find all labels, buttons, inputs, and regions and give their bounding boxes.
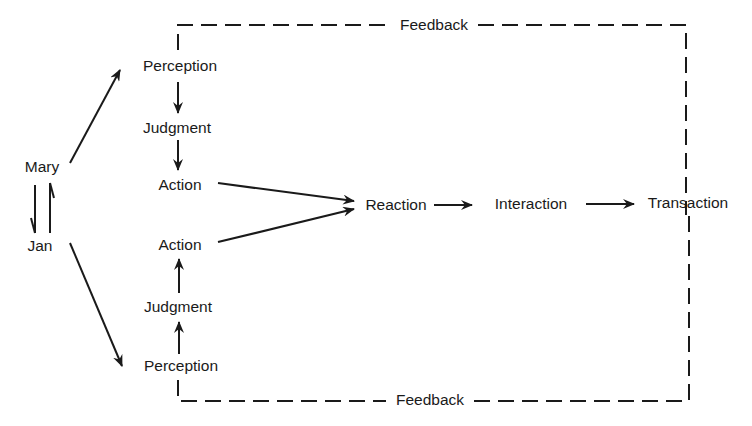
- lower-action: Action: [158, 237, 201, 253]
- person-jan: Jan: [28, 238, 53, 254]
- arrow-jan-to-perception: [70, 243, 122, 366]
- reaction-node: Reaction: [365, 197, 426, 213]
- feedback-label-bottom: Feedback: [396, 392, 464, 408]
- lower-judgment: Judgment: [144, 299, 212, 315]
- arrow-mary-to-perception: [70, 70, 120, 163]
- person-mary: Mary: [25, 159, 59, 175]
- arrow-action-upper-to-reaction: [218, 183, 354, 201]
- upper-judgment: Judgment: [143, 120, 211, 136]
- feedback-label-top: Feedback: [400, 17, 468, 33]
- mary-jan-exchange-arrows: [31, 183, 54, 233]
- arrow-action-lower-to-reaction: [218, 209, 354, 242]
- interpersonal-diagram: Feedback Feedback Mary Jan Perception Ju…: [0, 0, 752, 426]
- upper-perception: Perception: [143, 58, 217, 74]
- feedback-loop-top: [178, 25, 686, 215]
- feedback-loop-bottom: [178, 215, 689, 401]
- upper-action: Action: [158, 177, 201, 193]
- interaction-node: Interaction: [495, 196, 567, 212]
- transaction-node: Transaction: [648, 195, 728, 211]
- lower-perception: Perception: [144, 358, 218, 374]
